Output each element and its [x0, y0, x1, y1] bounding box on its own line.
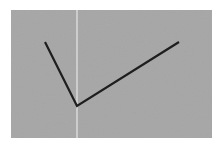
- gray-panel: [11, 10, 212, 138]
- diagram-canvas: [0, 0, 221, 152]
